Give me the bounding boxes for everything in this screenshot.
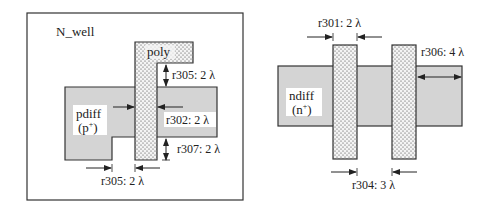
ndiff-label: ndiff [289, 88, 315, 103]
design-rules-diagram: N_well poly pdiff (p+) r305: 2 λ r302: 2… [0, 0, 490, 210]
poly-gate-1 [333, 45, 357, 159]
r301-label: r301: 2 λ [318, 16, 361, 30]
r307-label: r307: 2 λ [177, 142, 220, 156]
r304-label: r304: 3 λ [352, 178, 395, 192]
poly-label: poly [147, 44, 171, 59]
right-panel-nmos: ndiff (n+) r301: 2 λ r306: 4 λ r304: 3 λ [278, 16, 464, 192]
r306-label: r306: 4 λ [421, 45, 464, 59]
poly-gate-2 [392, 45, 416, 159]
r302-label: r302: 2 λ [166, 113, 209, 127]
pdiff-type-label: (p+) [78, 120, 98, 135]
r305-top-label: r305: 2 λ [172, 68, 215, 82]
n-well-label: N_well [56, 24, 95, 39]
pdiff-label: pdiff [76, 106, 102, 121]
ndiff-type-label: (n+) [292, 102, 312, 117]
left-panel-pmos: N_well poly pdiff (p+) r305: 2 λ r302: 2… [27, 13, 243, 200]
r305-bottom-label: r305: 2 λ [101, 174, 144, 188]
